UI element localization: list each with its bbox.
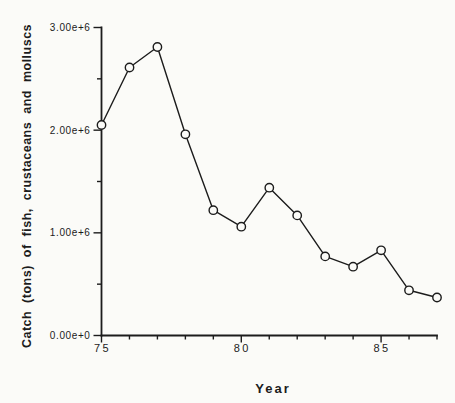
x-axis-title: Year [255,381,290,396]
x-tick-label: 80 [234,342,251,354]
y-axis-title: Catch (tons) of fish, crustaceans and mo… [20,24,34,348]
data-point-84 [349,263,357,271]
data-point-77 [153,43,161,51]
y-tick-label: 3.00e+6 [50,22,91,33]
data-line [102,47,438,298]
data-point-75 [97,121,105,129]
x-tick-label: 75 [94,342,111,354]
x-tick-label: 85 [373,342,390,354]
data-point-82 [293,211,301,219]
data-point-87 [433,293,441,301]
data-point-76 [125,63,133,71]
data-point-79 [209,206,217,214]
data-point-81 [265,184,273,192]
y-tick-label: 2.00e+6 [50,125,91,136]
data-point-78 [181,130,189,138]
data-point-86 [405,286,413,294]
y-tick-label: 1.00e+6 [50,227,91,238]
data-point-83 [321,252,329,260]
line-chart-canvas: 7580850.00e+01.00e+62.00e+63.00e+6 [0,0,455,403]
data-point-80 [237,223,245,231]
data-point-85 [377,246,385,254]
y-tick-label: 0.00e+0 [50,330,91,341]
chart-figure: 7580850.00e+01.00e+62.00e+63.00e+6 Catch… [0,0,455,403]
